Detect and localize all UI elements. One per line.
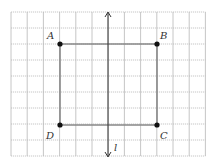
vertex-label-c: C [160, 130, 168, 141]
vertex-dot-a [57, 41, 62, 46]
vertex-label-b: B [159, 30, 167, 41]
vertex-label-a: A [46, 30, 54, 41]
vertex-dot-c [154, 122, 159, 127]
vertex-dot-d [57, 122, 62, 127]
reflection-diagram: l ABCD [0, 0, 212, 162]
vertex-dot-b [154, 41, 159, 46]
line-of-reflection-l: l [105, 12, 117, 157]
vertex-label-d: D [45, 130, 54, 141]
axis-label: l [114, 142, 117, 153]
